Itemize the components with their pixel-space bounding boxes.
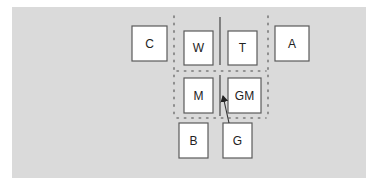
box-label: G bbox=[233, 134, 242, 148]
box-label: GM bbox=[235, 89, 254, 103]
box-label: A bbox=[288, 37, 296, 51]
box-c: C bbox=[132, 26, 167, 61]
box-label: T bbox=[239, 41, 247, 55]
box-label: C bbox=[145, 37, 154, 51]
box-g: G bbox=[223, 123, 252, 158]
diagram-canvas: C W T A M GM B G bbox=[0, 0, 366, 179]
box-label: B bbox=[189, 134, 197, 148]
box-m: M bbox=[184, 78, 213, 113]
box-t: T bbox=[228, 31, 257, 65]
box-w: W bbox=[184, 31, 213, 65]
box-b: B bbox=[179, 123, 208, 158]
box-a: A bbox=[275, 26, 309, 61]
box-label: M bbox=[194, 89, 204, 103]
box-gm: GM bbox=[228, 78, 261, 113]
box-label: W bbox=[193, 41, 205, 55]
